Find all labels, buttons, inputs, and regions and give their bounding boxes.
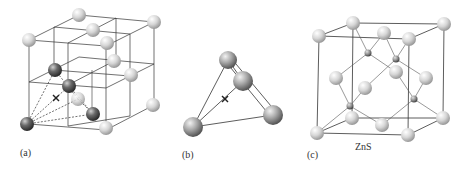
panel-a-x-mark (53, 95, 59, 101)
panel-b-atoms (183, 51, 283, 137)
panel-c-zinc-atoms (347, 50, 418, 110)
panel-b-label: (b) (182, 149, 194, 160)
crystal-structure-figure (0, 0, 472, 175)
panel-a-label: (a) (20, 147, 31, 158)
panel-c-caption: ZnS (355, 141, 372, 152)
panel-a-dark-atoms (20, 63, 100, 131)
panel-c-sulfur-atoms (310, 16, 451, 142)
panel-c-label: (c) (307, 149, 318, 160)
